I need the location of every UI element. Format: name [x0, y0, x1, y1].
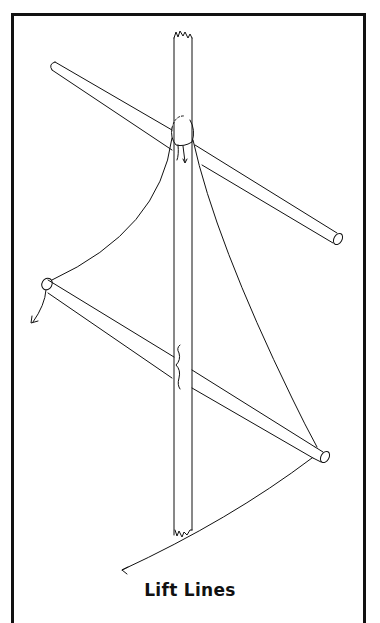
- masthead-knot: [172, 116, 194, 163]
- lower-yard: [40, 276, 332, 464]
- upper-yard: [51, 62, 345, 246]
- lift-line-right: [122, 140, 317, 574]
- diagram-caption: Lift Lines: [0, 580, 380, 600]
- mast: [174, 31, 192, 537]
